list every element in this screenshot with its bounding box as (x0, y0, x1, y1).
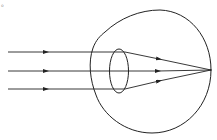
eye-focus-diagram (0, 0, 217, 140)
focal-point (210, 69, 212, 71)
eyeball-outline (90, 10, 211, 133)
